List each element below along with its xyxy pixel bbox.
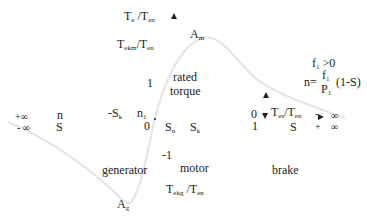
motor-region-label: motor (180, 162, 209, 174)
sk-label: Sk (190, 121, 200, 137)
max-torque-label: Tekm/Ten (117, 38, 154, 54)
brake-region-label: brake (272, 164, 299, 176)
up-arrow-icon (263, 92, 269, 98)
right-one: 1 (252, 120, 258, 132)
y-axis-label: Te /Ten (124, 10, 155, 26)
tick-one: 1 (147, 77, 153, 89)
right-plus-sign: + (315, 121, 321, 133)
rated-torque-line2: torque (170, 85, 201, 97)
starting-torque-label: Tes/Ten (271, 106, 301, 122)
point-ag-label: Ag (117, 198, 129, 214)
left-minus-infinity: - ∞ (17, 122, 30, 134)
down-arrow-icon (262, 113, 268, 119)
speed-formula-n: n= (304, 76, 317, 88)
origin-zero: 0 (144, 120, 150, 132)
x-axis-arrow-icon (318, 114, 324, 120)
speed-formula-tail: (1-S) (336, 76, 361, 88)
rated-torque-line1: rated (173, 71, 197, 83)
neg-sk-label: -Sk (108, 107, 122, 123)
speed-formula-denominator: P1 (321, 83, 331, 99)
generator-region-label: generator (102, 164, 147, 176)
y-axis-arrow-icon (171, 13, 177, 19)
right-s-label: S (290, 121, 297, 133)
right-infinity-bottom: ∞ (331, 121, 338, 133)
synchronous-point-icon (154, 118, 156, 120)
left-s-label: S (56, 121, 63, 133)
point-am-label: Am (190, 28, 204, 44)
min-torque-label: Tekg /Ten (166, 183, 204, 199)
sn-label: Sn (165, 121, 175, 137)
tick-minus-one: -1 (162, 149, 172, 161)
